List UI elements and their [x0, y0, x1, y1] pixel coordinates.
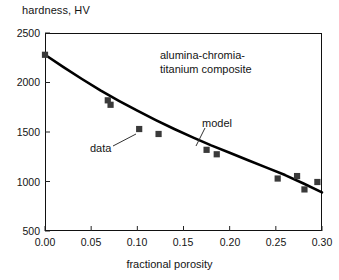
composite-annotation: alumina-chromia- titanium composite — [160, 48, 252, 76]
data-point — [301, 186, 307, 192]
data-point — [214, 151, 220, 157]
data-leader-line — [113, 134, 136, 146]
data-point — [294, 173, 300, 179]
data-point — [314, 179, 320, 185]
chart-figure: hardness, HV 2500 2000 1500 1000 500 0.0… — [0, 0, 339, 280]
model-label: model — [202, 116, 232, 130]
data-point — [203, 147, 209, 153]
data-point — [107, 102, 113, 108]
plot-graphics — [0, 0, 339, 280]
data-point — [136, 126, 142, 132]
data-point — [42, 52, 48, 58]
composite-annotation-line2: titanium composite — [160, 62, 252, 76]
composite-annotation-line1: alumina-chromia- — [160, 48, 252, 62]
data-point — [155, 131, 161, 137]
data-label: data — [90, 141, 111, 155]
data-point — [275, 175, 281, 181]
x-axis-title: fractional porosity — [0, 258, 339, 270]
